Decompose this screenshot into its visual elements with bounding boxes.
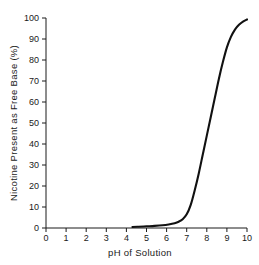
x-tick-label: 10 bbox=[242, 233, 252, 243]
axis-spine bbox=[46, 18, 247, 228]
x-tick-label: 8 bbox=[204, 233, 209, 243]
x-tick-label: 2 bbox=[84, 233, 89, 243]
y-tick-label: 40 bbox=[29, 139, 39, 149]
chart-figure: 012345678910 0102030405060708090100 pH o… bbox=[0, 0, 259, 265]
y-tick-label: 70 bbox=[29, 76, 39, 86]
data-series-curve bbox=[132, 19, 247, 226]
y-tick-label: 100 bbox=[24, 13, 39, 23]
y-axis-title: Nicotine Present as Free Base (%) bbox=[8, 45, 19, 201]
y-tick-label: 60 bbox=[29, 97, 39, 107]
y-tick-label: 80 bbox=[29, 55, 39, 65]
x-tick-label: 0 bbox=[43, 233, 48, 243]
x-tick-label: 9 bbox=[224, 233, 229, 243]
chart-plot-area: 012345678910 0102030405060708090100 pH o… bbox=[0, 0, 259, 265]
x-tick-label: 1 bbox=[64, 233, 69, 243]
x-axis-title: pH of Solution bbox=[108, 247, 172, 258]
y-axis-ticks: 0102030405060708090100 bbox=[24, 13, 46, 233]
axes-group bbox=[46, 18, 247, 228]
x-tick-label: 7 bbox=[184, 233, 189, 243]
y-tick-label: 30 bbox=[29, 160, 39, 170]
y-tick-label: 20 bbox=[29, 181, 39, 191]
y-tick-label: 50 bbox=[29, 118, 39, 128]
nicotine-free-base-curve bbox=[132, 19, 247, 226]
y-tick-label: 90 bbox=[29, 34, 39, 44]
y-tick-label: 0 bbox=[34, 223, 39, 233]
x-tick-label: 4 bbox=[124, 233, 129, 243]
x-tick-label: 3 bbox=[104, 233, 109, 243]
y-tick-label: 10 bbox=[29, 202, 39, 212]
x-axis-ticks: 012345678910 bbox=[43, 228, 252, 243]
x-tick-label: 6 bbox=[164, 233, 169, 243]
x-tick-label: 5 bbox=[144, 233, 149, 243]
